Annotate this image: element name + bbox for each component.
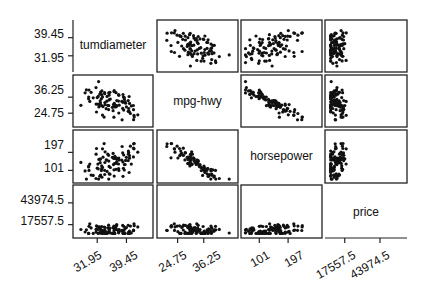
data-point xyxy=(250,96,253,99)
data-point xyxy=(121,145,124,148)
data-point xyxy=(79,104,82,107)
data-point xyxy=(79,228,82,231)
data-point xyxy=(130,163,133,166)
data-point xyxy=(274,228,277,231)
data-point xyxy=(244,231,247,234)
data-point xyxy=(333,47,336,50)
data-point xyxy=(335,104,338,107)
data-point xyxy=(183,158,186,161)
data-point xyxy=(112,90,115,93)
diagonal-label-mpg-hwy: mpg-hwy xyxy=(157,94,238,108)
data-point xyxy=(186,36,189,39)
data-point xyxy=(112,163,115,166)
data-point xyxy=(173,151,176,154)
data-point xyxy=(265,225,268,228)
data-point xyxy=(169,44,172,47)
data-point xyxy=(284,48,287,51)
data-point xyxy=(133,142,136,145)
diagonal-label-tumdiameter: tumdiameter xyxy=(73,38,153,52)
data-point xyxy=(178,224,181,227)
panel-frame xyxy=(157,130,238,183)
data-point xyxy=(244,80,247,83)
data-point xyxy=(330,178,333,181)
data-point xyxy=(109,166,112,169)
data-point xyxy=(106,153,109,156)
data-point xyxy=(228,53,231,56)
data-point xyxy=(274,41,277,44)
data-point xyxy=(342,159,345,162)
data-point xyxy=(206,47,209,50)
data-point xyxy=(330,97,333,100)
data-point xyxy=(184,151,187,154)
data-point xyxy=(329,34,332,37)
data-point xyxy=(284,55,287,58)
data-point xyxy=(132,228,135,231)
data-point xyxy=(254,34,257,37)
data-point xyxy=(188,33,191,36)
data-point xyxy=(301,31,304,34)
data-point xyxy=(178,154,181,157)
data-point xyxy=(94,86,97,89)
data-point xyxy=(260,95,263,98)
data-point xyxy=(261,38,264,41)
data-point xyxy=(273,35,276,38)
data-point xyxy=(329,104,332,107)
data-point xyxy=(270,52,273,55)
data-point xyxy=(285,44,288,47)
data-point xyxy=(189,228,192,231)
data-point xyxy=(329,107,332,110)
data-point xyxy=(342,35,345,38)
data-point xyxy=(267,98,270,101)
data-point xyxy=(335,64,338,67)
data-point xyxy=(173,225,176,228)
data-point xyxy=(340,96,343,99)
data-point xyxy=(287,225,290,228)
y-tick-price-low: 17557.5 xyxy=(4,214,64,228)
data-point xyxy=(173,31,176,34)
data-point xyxy=(286,107,289,110)
data-point xyxy=(293,108,296,111)
data-point xyxy=(337,46,340,49)
data-point xyxy=(275,107,278,110)
data-point xyxy=(176,145,179,148)
data-point xyxy=(288,103,291,106)
data-point xyxy=(214,225,217,228)
data-point xyxy=(118,158,121,161)
data-point xyxy=(203,167,206,170)
data-point xyxy=(92,232,95,235)
data-point xyxy=(128,232,131,235)
data-point xyxy=(293,224,296,227)
scatter-points-mpg-hwy-vs-horsepower xyxy=(244,80,304,121)
data-point xyxy=(278,225,281,228)
data-point xyxy=(293,228,296,231)
data-point xyxy=(289,110,292,113)
data-point xyxy=(228,178,231,181)
data-point xyxy=(170,50,173,53)
data-point xyxy=(97,231,100,234)
data-point xyxy=(244,61,247,64)
data-point xyxy=(108,227,111,230)
data-point xyxy=(136,113,139,116)
data-point xyxy=(267,103,270,106)
data-point xyxy=(341,31,344,34)
data-point xyxy=(79,161,82,164)
y-tick-mpg-hwy-high: 36.25 xyxy=(4,83,64,97)
data-point xyxy=(296,112,299,115)
data-point xyxy=(165,145,168,148)
data-point xyxy=(256,48,259,51)
data-point xyxy=(244,53,247,56)
data-point xyxy=(200,52,203,55)
data-point xyxy=(132,118,135,121)
data-point xyxy=(282,225,285,228)
data-point xyxy=(203,54,206,57)
data-point xyxy=(181,38,184,41)
data-point xyxy=(345,59,348,62)
data-point xyxy=(112,225,115,228)
data-point xyxy=(190,163,193,166)
data-point xyxy=(127,107,130,110)
data-point xyxy=(112,116,115,119)
scatter-points-tumdiameter-vs-mpg-hwy xyxy=(165,29,231,68)
data-point xyxy=(182,32,185,35)
data-point xyxy=(280,104,283,107)
data-point xyxy=(267,37,270,40)
